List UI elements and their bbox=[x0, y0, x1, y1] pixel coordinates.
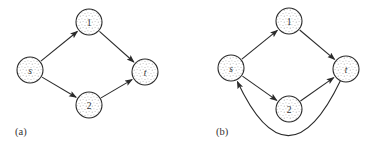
edge-a-s-2 bbox=[42, 77, 76, 97]
edge-a-s-1 bbox=[41, 31, 78, 61]
caption-a: (a) bbox=[15, 127, 27, 138]
edge-b-s-1 bbox=[242, 30, 277, 59]
figure: s1t2s1t2 (a) (b) bbox=[0, 0, 373, 150]
edge-b-2-t bbox=[300, 78, 333, 101]
diagram-canvas: s1t2s1t2 bbox=[0, 0, 373, 150]
edge-a-1-t bbox=[99, 31, 133, 62]
edge-b-1-t bbox=[300, 30, 335, 59]
edge-a-2-t bbox=[101, 80, 132, 98]
node-label-b-s: s bbox=[229, 64, 233, 74]
node-label-b-1: 1 bbox=[287, 17, 292, 27]
edge-b-s-2 bbox=[242, 76, 276, 100]
node-label-b-t: t bbox=[345, 65, 348, 75]
node-label-a-t: t bbox=[144, 68, 147, 78]
node-label-b-2: 2 bbox=[287, 105, 292, 115]
node-label-a-1: 1 bbox=[87, 18, 92, 28]
node-label-a-2: 2 bbox=[87, 101, 92, 111]
node-label-a-s: s bbox=[28, 66, 32, 76]
caption-b: (b) bbox=[216, 127, 228, 138]
